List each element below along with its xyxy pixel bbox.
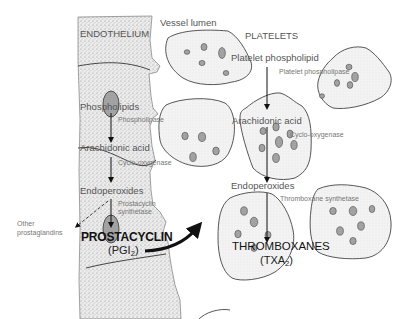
diagram-canvas: ENDOTHELIUM Vessel lumen PLATELETS Phosp… <box>0 0 406 319</box>
diagram-graphics <box>0 0 406 319</box>
endoperoxides-endo-label: Endoperoxides <box>80 186 143 196</box>
txa2-label: (TXA2) <box>260 255 293 268</box>
arachidonic-acid-endo-label: Arachidonic acid <box>80 143 150 153</box>
platelet-phospholipase-label: Platelet phospholipase <box>279 68 349 75</box>
platelets-label: PLATELETS <box>245 31 298 41</box>
other-prostaglandins-line1: Other <box>17 220 35 227</box>
cyclooxygenase-plt-label: Cyclo-oxygenase <box>290 131 344 138</box>
platelet-4 <box>318 47 391 109</box>
phospholipase-label: Phospholipase <box>118 116 164 123</box>
prostacyclin-label: PROSTACYCLIN <box>81 231 172 243</box>
thromboxanes-label: THROMBOXANES <box>232 241 330 253</box>
arachidonic-acid-plt-label: Arachidonic acid <box>232 116 302 126</box>
prostacyclin-synthetase-line1: Prostacyclin <box>118 200 156 207</box>
prostacyclin-synthetase-line2: synthetase <box>118 208 152 215</box>
endothelium-label: ENDOTHELIUM <box>80 29 149 39</box>
vessel-lumen-label: Vessel lumen <box>160 18 217 28</box>
endothelium-layer <box>78 16 181 319</box>
platelet-edge-right <box>198 309 230 319</box>
platelet-phospholipid-label: Platelet phospholipid <box>231 53 319 63</box>
phospholipids-label: Phospholipids <box>80 102 139 112</box>
endoperoxides-plt-label: Endoperoxides <box>231 181 294 191</box>
cyclooxygenase-endo-label: Cyclo-oxygenase <box>118 159 172 166</box>
pgi2-label: (PGI2) <box>108 245 139 258</box>
platelet-2 <box>159 99 235 167</box>
other-prostaglandins-line2: prostaglandins <box>17 229 63 236</box>
thromboxane-synthetase-label: Thromboxane synthetase <box>280 195 359 202</box>
